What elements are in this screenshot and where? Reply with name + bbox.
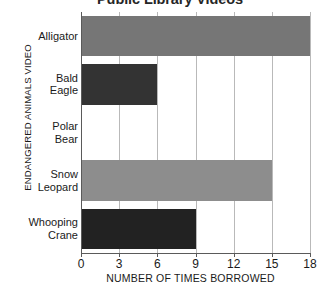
category-label-polar-bear: PolarBear bbox=[20, 120, 78, 145]
bar-alligator bbox=[81, 16, 310, 56]
category-axis-labels: AlligatorBaldEaglePolarBearSnowLeopardWh… bbox=[20, 12, 78, 253]
category-label-line: Snow bbox=[20, 168, 78, 181]
bar-snow-leopard bbox=[81, 160, 272, 200]
category-label-bald-eagle: BaldEagle bbox=[20, 72, 78, 97]
bar-chart: Public Library Videos ENDANGERED ANIMALS… bbox=[0, 0, 321, 288]
category-label-line: Polar bbox=[20, 120, 78, 133]
chart-title: Public Library Videos bbox=[60, 0, 280, 7]
x-tick-label: 12 bbox=[219, 257, 249, 271]
bar-whooping-crane bbox=[81, 209, 196, 249]
category-label-line: Eagle bbox=[20, 84, 78, 97]
x-tick-label: 9 bbox=[181, 257, 211, 271]
category-label-line: Leopard bbox=[20, 181, 78, 194]
x-tick-label: 6 bbox=[142, 257, 172, 271]
x-tick-label: 0 bbox=[66, 257, 96, 271]
category-label-alligator: Alligator bbox=[20, 30, 78, 43]
category-label-line: Bald bbox=[20, 72, 78, 85]
plot-area bbox=[81, 12, 310, 253]
x-axis-title: NUMBER OF TIMES BORROWED bbox=[60, 272, 321, 284]
category-label-line: Bear bbox=[20, 133, 78, 146]
gridline bbox=[310, 12, 311, 253]
y-axis-line bbox=[81, 12, 82, 254]
bar-bald-eagle bbox=[81, 64, 157, 104]
x-tick-label: 15 bbox=[257, 257, 287, 271]
category-label-line: Whooping bbox=[20, 216, 78, 229]
x-tick-label: 3 bbox=[104, 257, 134, 271]
category-label-line: Crane bbox=[20, 229, 78, 242]
category-label-whooping-crane: WhoopingCrane bbox=[20, 216, 78, 241]
category-label-snow-leopard: SnowLeopard bbox=[20, 168, 78, 193]
category-label-line: Alligator bbox=[20, 30, 78, 43]
x-tick-label: 18 bbox=[295, 257, 321, 271]
